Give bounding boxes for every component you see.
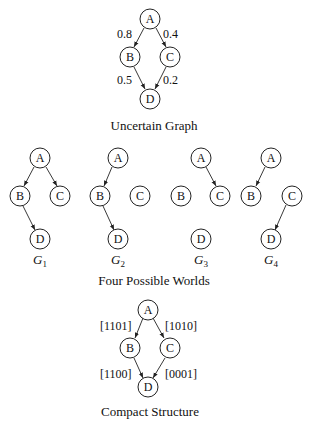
svg-text:A: A bbox=[114, 151, 123, 165]
edge-c-d bbox=[153, 358, 165, 378]
edge-label-a-c: [1010] bbox=[165, 319, 197, 333]
svg-text:D: D bbox=[144, 380, 153, 394]
edge-a-b bbox=[24, 167, 34, 186]
world-g1: A B C D G1 bbox=[10, 148, 70, 269]
node-c: C bbox=[282, 186, 302, 206]
diagram-canvas: 0.8 0.4 0.5 0.2 A B C D Uncertain Graph … bbox=[0, 0, 309, 424]
node-d: D bbox=[30, 229, 50, 249]
node-c: C bbox=[50, 186, 70, 206]
edge-label-c-d: 0.2 bbox=[163, 73, 178, 87]
edge-a-b bbox=[256, 167, 265, 186]
node-c: C bbox=[210, 186, 230, 206]
svg-text:A: A bbox=[36, 151, 45, 165]
svg-text:D: D bbox=[197, 232, 206, 246]
node-c: C bbox=[160, 338, 180, 358]
node-d: D bbox=[138, 377, 158, 397]
edge-b-d bbox=[23, 206, 35, 230]
node-a: A bbox=[191, 148, 211, 168]
svg-text:C: C bbox=[136, 189, 144, 203]
edge-label-c-d: [0001] bbox=[165, 367, 197, 381]
node-b: B bbox=[10, 186, 30, 206]
svg-text:D: D bbox=[114, 232, 123, 246]
node-d: D bbox=[140, 89, 160, 109]
svg-text:A: A bbox=[197, 151, 206, 165]
world-label-g2: G2 bbox=[111, 252, 125, 269]
uncertain-graph: 0.8 0.4 0.5 0.2 A B C D Uncertain Graph bbox=[111, 9, 198, 133]
node-b: B bbox=[120, 338, 140, 358]
uncertain-graph-caption: Uncertain Graph bbox=[111, 118, 198, 133]
edge-a-b bbox=[135, 318, 143, 338]
svg-text:B: B bbox=[247, 189, 255, 203]
edge-b-d bbox=[103, 206, 114, 230]
edge-a-b bbox=[134, 28, 144, 47]
edge-a-c bbox=[46, 167, 57, 186]
edge-b-d bbox=[134, 358, 143, 378]
edge-a-c bbox=[153, 318, 164, 338]
svg-text:D: D bbox=[267, 232, 276, 246]
svg-text:A: A bbox=[144, 303, 153, 317]
world-label-g1: G1 bbox=[33, 252, 47, 269]
compact-structure-caption: Compact Structure bbox=[101, 404, 199, 419]
compact-structure: [1101] [1010] [1100] [0001] A B C D Comp… bbox=[100, 300, 199, 419]
world-g4: A B C D G4 bbox=[241, 148, 302, 269]
edge-label-b-d: [1100] bbox=[100, 367, 132, 381]
node-c: C bbox=[130, 186, 150, 206]
svg-text:C: C bbox=[288, 189, 296, 203]
edge-label-a-b: [1101] bbox=[100, 319, 132, 333]
node-d: D bbox=[261, 229, 281, 249]
node-a: A bbox=[261, 148, 281, 168]
node-d: D bbox=[191, 229, 211, 249]
node-a: A bbox=[108, 148, 128, 168]
svg-text:A: A bbox=[146, 12, 155, 26]
svg-text:B: B bbox=[16, 189, 24, 203]
svg-text:B: B bbox=[96, 189, 104, 203]
node-b: B bbox=[171, 186, 191, 206]
world-label-g3: G3 bbox=[194, 252, 208, 269]
edge-label-b-d: 0.5 bbox=[117, 73, 132, 87]
svg-text:D: D bbox=[146, 92, 155, 106]
svg-text:C: C bbox=[56, 189, 64, 203]
svg-text:C: C bbox=[216, 189, 224, 203]
world-g3: A B C D G3 bbox=[171, 148, 230, 269]
svg-text:A: A bbox=[267, 151, 276, 165]
svg-text:B: B bbox=[177, 189, 185, 203]
edge-label-a-c: 0.4 bbox=[163, 27, 178, 41]
node-a: A bbox=[138, 300, 158, 320]
node-c: C bbox=[160, 47, 180, 67]
svg-text:C: C bbox=[166, 341, 174, 355]
possible-worlds-caption: Four Possible Worlds bbox=[98, 273, 209, 288]
world-label-g4: G4 bbox=[264, 252, 278, 269]
svg-text:D: D bbox=[36, 232, 45, 246]
node-a: A bbox=[140, 9, 160, 29]
world-g2: A B C D G2 bbox=[90, 148, 150, 269]
node-b: B bbox=[241, 186, 261, 206]
node-a: A bbox=[30, 148, 50, 168]
node-d: D bbox=[108, 229, 128, 249]
node-b: B bbox=[120, 47, 140, 67]
edge-c-d bbox=[275, 205, 286, 230]
svg-text:B: B bbox=[126, 50, 134, 64]
svg-text:C: C bbox=[166, 50, 174, 64]
svg-text:B: B bbox=[126, 341, 134, 355]
edge-a-b bbox=[104, 167, 112, 186]
node-b: B bbox=[90, 186, 110, 206]
edge-b-d bbox=[134, 67, 145, 89]
edge-a-c bbox=[206, 167, 216, 186]
edge-label-a-b: 0.8 bbox=[117, 27, 132, 41]
